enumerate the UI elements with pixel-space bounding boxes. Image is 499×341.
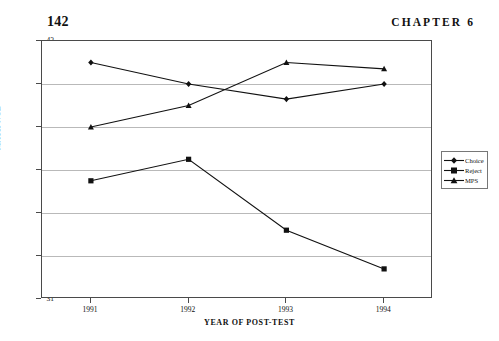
series-line-reject <box>91 159 384 269</box>
x-axis-tick-label: 1993 <box>278 305 293 314</box>
x-axis-tick-label: 1994 <box>376 305 391 314</box>
y-axis-tick <box>36 298 41 299</box>
legend-item-mps[interactable]: MPS <box>444 175 484 185</box>
data-point-choice <box>284 96 289 102</box>
legend-marker-triangle-icon <box>444 176 464 185</box>
x-axis-tick <box>188 298 189 303</box>
book-page: 142 CHAPTER 6 MATH NCE 43413937353331 19… <box>0 0 499 341</box>
data-point-reject <box>382 266 387 271</box>
x-axis-title: YEAR OF POST-TEST <box>0 318 499 327</box>
legend-label-reject: Reject <box>464 167 482 174</box>
x-axis-tick <box>90 298 91 303</box>
x-axis-tick <box>285 298 286 303</box>
page-number: 142 <box>47 14 69 30</box>
data-point-reject <box>186 157 191 162</box>
chart-legend: Choice Reject MPS <box>441 151 488 189</box>
series-line-choice <box>91 63 384 100</box>
legend-label-choice: Choice <box>464 157 484 164</box>
legend-label-mps: MPS <box>464 177 478 184</box>
legend-marker-diamond-icon <box>444 156 464 165</box>
data-point-reject <box>284 228 289 233</box>
data-point-choice <box>88 59 93 65</box>
legend-item-reject[interactable]: Reject <box>444 165 484 175</box>
chapter-header: CHAPTER 6 <box>391 16 475 28</box>
legend-marker-square-icon <box>444 166 464 175</box>
data-series-lines <box>42 41 433 299</box>
x-axis-tick-label: 1991 <box>82 305 97 314</box>
data-point-reject <box>88 178 93 183</box>
data-point-choice <box>381 81 386 87</box>
plot-area <box>41 40 432 298</box>
x-axis-tick <box>383 298 384 303</box>
legend-item-choice[interactable]: Choice <box>444 155 484 165</box>
y-axis-title: MATH NCE <box>0 106 2 151</box>
x-axis-tick-label: 1992 <box>180 305 195 314</box>
data-point-choice <box>186 81 191 87</box>
